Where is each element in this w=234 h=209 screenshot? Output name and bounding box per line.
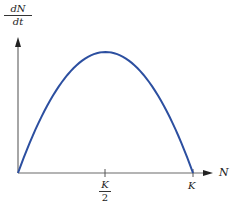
tick-label-k-half: K 2 — [99, 180, 111, 203]
chart-plot — [0, 0, 234, 209]
k-half-numerator: K — [99, 180, 111, 190]
growth-curve — [18, 52, 193, 173]
x-axis-arrow-icon — [203, 170, 213, 176]
tick-label-k: K — [188, 181, 195, 191]
x-axis-label: N — [219, 167, 229, 178]
y-axis-label: dN dt — [4, 4, 32, 27]
y-axis-arrow-icon — [15, 37, 21, 47]
y-label-denominator: dt — [4, 17, 32, 27]
k-half-denominator: 2 — [99, 193, 111, 203]
y-label-numerator: dN — [4, 4, 32, 14]
